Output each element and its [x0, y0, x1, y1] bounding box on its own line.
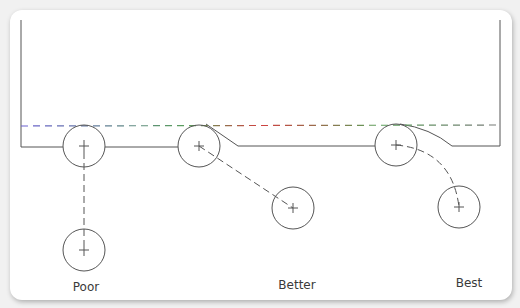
better-example	[178, 125, 314, 229]
workpiece-outline	[21, 20, 500, 147]
tool-path-diagram	[0, 0, 520, 308]
better-profile	[206, 124, 375, 146]
label-poor: Poor	[73, 280, 99, 294]
poor-center-mark-end	[79, 244, 89, 256]
best-path	[396, 145, 459, 207]
reference-dashed-line	[21, 125, 500, 126]
poor-center-mark-start	[79, 140, 89, 152]
best-example	[375, 124, 480, 228]
label-better: Better	[278, 278, 315, 292]
poor-example	[63, 125, 105, 271]
label-best: Best	[456, 276, 483, 290]
better-path	[199, 146, 293, 208]
